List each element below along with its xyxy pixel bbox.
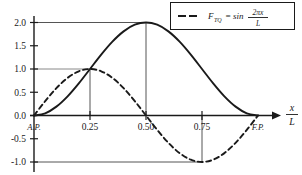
- x-endpoint-label-0: A.P.: [26, 122, 41, 132]
- legend: F TQ = sin 2πx L: [171, 3, 295, 30]
- legend-equals: =: [225, 11, 231, 21]
- chart-container: 2.01.51.00.50.0-0.5-1.0 A.P.0.250.500.75…: [0, 0, 302, 175]
- legend-subscript: TQ: [214, 17, 222, 23]
- y-tick-label-3: 0.5: [14, 88, 26, 98]
- x-tick-label-2: 0.50: [138, 122, 155, 132]
- legend-denominator: L: [255, 19, 260, 28]
- y-tick-label-1: 1.5: [14, 41, 26, 51]
- y-tick-label-2: 1.0: [14, 64, 26, 74]
- x-tick-label-3: 0.75: [194, 122, 211, 132]
- x-endpoint-label-4: F.P.: [251, 122, 264, 132]
- x-tick-label-1: 0.25: [82, 122, 99, 132]
- chart-svg: 2.01.51.00.50.0-0.5-1.0 A.P.0.250.500.75…: [0, 0, 302, 175]
- y-tick-label-5: -0.5: [11, 134, 26, 144]
- x-axis-title-numerator: x: [289, 102, 295, 113]
- y-tick-label-0: 2.0: [14, 18, 26, 28]
- y-tick-label-4: 0.0: [14, 111, 26, 121]
- legend-symbol: F: [207, 11, 214, 21]
- legend-function: sin: [233, 11, 244, 21]
- x-axis-title-denominator: L: [288, 116, 295, 127]
- legend-numerator: 2πx: [253, 8, 265, 17]
- y-tick-label-6: -1.0: [11, 157, 26, 167]
